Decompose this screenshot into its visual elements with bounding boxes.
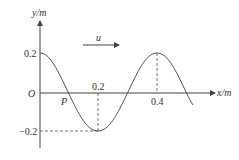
x-axis-label: x/m [216,87,231,98]
origin-label: O [28,88,35,99]
velocity-label: u [96,32,101,43]
point-p-label: P [60,96,67,107]
y-tick-neg-0.2: −0.2 [19,126,37,137]
y-tick-0.2: 0.2 [24,48,37,59]
x-tick-0.4: 0.4 [151,96,164,107]
wave-curve [40,53,193,131]
y-axis-label: y/m [31,7,46,18]
x-tick-0.2: 0.2 [92,81,105,92]
wave-diagram: y/m x/m O P u 0.2 −0.2 0.2 0.4 [0,0,239,160]
